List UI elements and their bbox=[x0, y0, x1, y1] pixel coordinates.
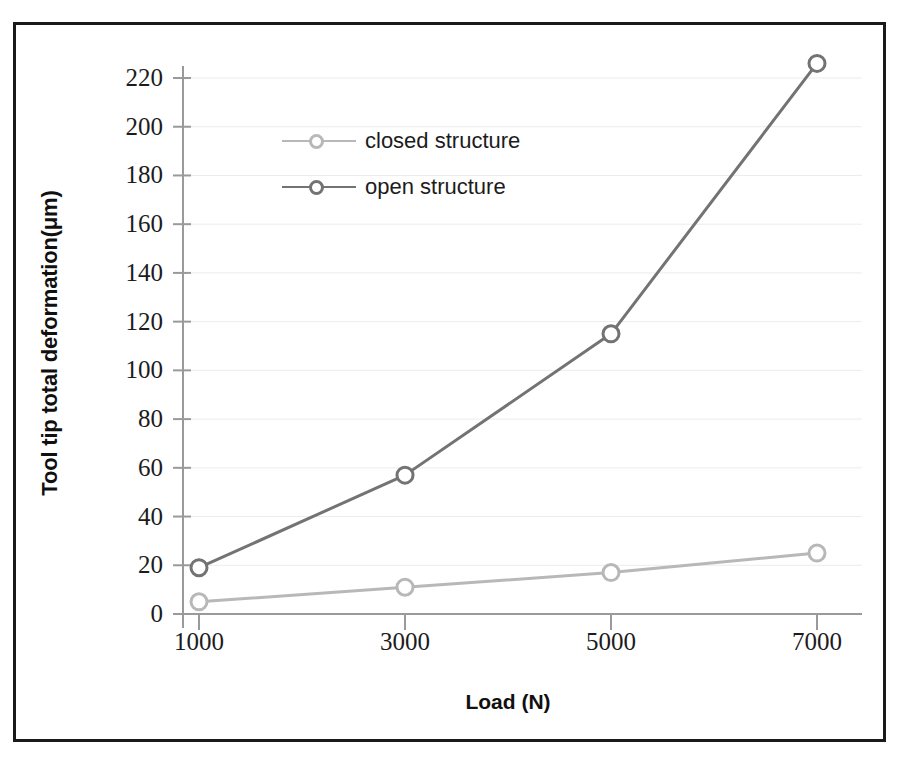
y-tick-label: 100 bbox=[101, 356, 163, 384]
x-tick-label: 1000 bbox=[129, 628, 269, 656]
legend-marker-closed-structure bbox=[309, 134, 324, 149]
y-tick-label: 0 bbox=[101, 600, 163, 628]
y-tick-label: 40 bbox=[101, 503, 163, 531]
legend-swatch-closed-structure bbox=[282, 131, 356, 151]
y-tick-label: 200 bbox=[101, 113, 163, 141]
x-tick-label: 3000 bbox=[335, 628, 475, 656]
y-tick-label: 180 bbox=[101, 161, 163, 189]
data-point-open-structure-3000 bbox=[397, 467, 413, 483]
data-point-closed-structure-3000 bbox=[397, 579, 413, 595]
legend-item-closed-structure: closed structure bbox=[282, 118, 520, 164]
legend-marker-open-structure bbox=[309, 180, 324, 195]
y-tick-label: 220 bbox=[101, 64, 163, 92]
x-tick-label: 5000 bbox=[541, 628, 681, 656]
y-tick-label: 80 bbox=[101, 405, 163, 433]
series-line-closed-structure bbox=[199, 553, 817, 602]
legend-swatch-open-structure bbox=[282, 177, 356, 197]
data-point-closed-structure-7000 bbox=[809, 545, 825, 561]
data-point-open-structure-1000 bbox=[191, 560, 207, 576]
line-chart: 020406080100120140160180200220 100030005… bbox=[0, 0, 900, 769]
legend-item-open-structure: open structure bbox=[282, 164, 520, 210]
data-point-closed-structure-1000 bbox=[191, 594, 207, 610]
y-tick-label: 120 bbox=[101, 308, 163, 336]
x-tick-label: 7000 bbox=[747, 628, 887, 656]
legend: closed structure open structure bbox=[282, 118, 520, 210]
x-axis-title: Load (N) bbox=[199, 690, 817, 714]
y-tick-label: 20 bbox=[101, 551, 163, 579]
y-tick-label: 140 bbox=[101, 259, 163, 287]
data-point-open-structure-7000 bbox=[809, 55, 825, 71]
data-point-closed-structure-5000 bbox=[603, 565, 619, 581]
legend-label-closed-structure: closed structure bbox=[365, 128, 520, 154]
y-axis-title: Tool tip total deformation(μm) bbox=[37, 183, 63, 503]
y-tick-label: 160 bbox=[101, 210, 163, 238]
legend-label-open-structure: open structure bbox=[365, 174, 506, 200]
y-tick-label: 60 bbox=[101, 454, 163, 482]
data-point-open-structure-5000 bbox=[603, 326, 619, 342]
